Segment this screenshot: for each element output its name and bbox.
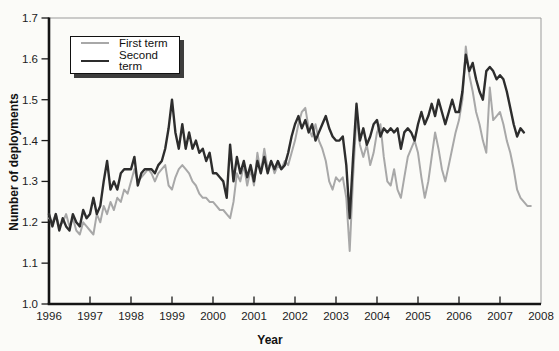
chart-figure: 1.01.11.21.31.41.51.61.71996199719981999… [0,0,559,351]
x-axis-tick-label: 1996 [36,310,62,322]
x-axis-tick-label: 2003 [323,310,349,322]
y-axis-tick-label: 1.3 [22,175,38,187]
y-axis-tick-label: 1.5 [22,94,38,106]
y-axis-tick-label: 1.7 [22,12,38,24]
y-axis-tick-label: 1.1 [22,257,38,269]
x-axis-tick-label: 2001 [241,310,267,322]
x-axis-tick-label: 2004 [364,310,390,322]
x-axis-tick-label: 2005 [405,310,431,322]
legend: First term Second term [70,36,180,74]
y-axis-tick-label: 1.6 [22,53,38,65]
second-term-line-swatch [81,60,109,62]
x-axis-tick-label: 1999 [159,310,185,322]
y-axis-tick-label: 1.2 [22,216,38,228]
x-axis-tick-label: 1998 [118,310,144,322]
x-axis-tick-label: 2002 [282,310,308,322]
x-axis-tick-label: 2008 [528,310,554,322]
x-axis-tick-label: 2006 [446,310,472,322]
x-axis-tick-label: 2007 [487,310,513,322]
legend-label-first-term: First term [119,38,168,50]
first-term-line-swatch [81,42,109,44]
x-axis-tick-label: 1997 [77,310,103,322]
y-axis-tick-label: 1.0 [22,298,38,310]
x-axis-title: Year [0,333,540,347]
y-axis-title: Number of deployments [7,82,21,242]
legend-label-second-term: Second term [119,50,179,73]
legend-item-second-term: Second term [81,50,179,73]
legend-item-first-term: First term [81,38,179,50]
y-axis-tick-label: 1.4 [22,135,39,147]
x-axis-tick-label: 2000 [200,310,226,322]
